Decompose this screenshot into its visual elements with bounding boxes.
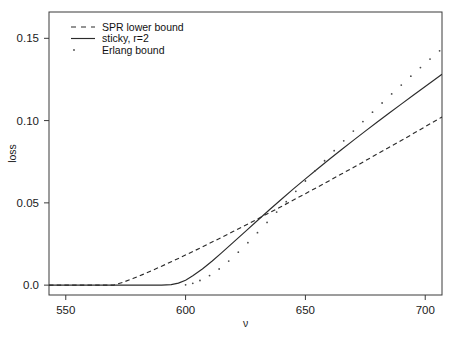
erlang-bound-point xyxy=(400,84,402,86)
erlang-bound-point xyxy=(276,211,278,213)
erlang-bound-point xyxy=(439,50,441,52)
y-tick-label: 0.15 xyxy=(17,32,39,44)
y-tick-label: 0.10 xyxy=(17,115,39,127)
erlang-bound-point xyxy=(185,284,187,286)
erlang-bound-point xyxy=(324,160,326,162)
erlang-bound-point xyxy=(192,282,194,284)
x-tick-label: 650 xyxy=(296,304,315,316)
figure-background xyxy=(0,0,456,338)
x-tick-label: 700 xyxy=(416,304,435,316)
legend-key-dotted xyxy=(73,49,75,51)
erlang-bound-point xyxy=(305,180,307,182)
chart-figure: 550600650700 0.00.050.100.15 ν loss SPR … xyxy=(0,0,456,338)
x-tick-label: 550 xyxy=(56,304,75,316)
y-axis-title: loss xyxy=(6,144,18,163)
erlang-bound-point xyxy=(410,75,412,77)
erlang-bound-point xyxy=(333,150,335,152)
erlang-bound-point xyxy=(314,170,316,172)
erlang-bound-point xyxy=(266,222,268,224)
erlang-bound-point xyxy=(381,102,383,104)
erlang-bound-point xyxy=(228,260,230,262)
legend-label: Erlang bound xyxy=(102,44,165,56)
erlang-bound-point xyxy=(209,275,211,277)
erlang-bound-point xyxy=(420,67,422,69)
legend-label: SPR lower bound xyxy=(102,21,184,33)
erlang-bound-point xyxy=(257,232,259,234)
x-axis-title: ν xyxy=(243,317,248,329)
erlang-bound-point xyxy=(295,190,297,192)
erlang-bound-point xyxy=(362,121,364,123)
y-tick-label: 0.05 xyxy=(17,197,39,209)
erlang-bound-point xyxy=(247,242,249,244)
erlang-bound-point xyxy=(391,93,393,95)
erlang-bound-point xyxy=(237,251,239,253)
legend-label: sticky, r=2 xyxy=(102,32,149,44)
loss-vs-nu-line-chart: 550600650700 0.00.050.100.15 ν loss SPR … xyxy=(0,0,456,338)
erlang-bound-point xyxy=(352,130,354,132)
erlang-bound-point xyxy=(343,140,345,142)
erlang-bound-point xyxy=(285,201,287,203)
y-tick-label: 0.0 xyxy=(23,279,39,291)
erlang-bound-point xyxy=(429,58,431,60)
x-tick-label: 600 xyxy=(176,304,195,316)
erlang-bound-point xyxy=(218,268,220,270)
erlang-bound-point xyxy=(372,111,374,113)
erlang-bound-point xyxy=(199,280,201,282)
